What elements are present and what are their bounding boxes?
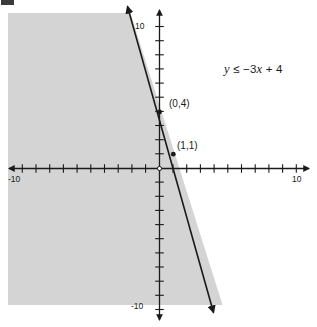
point-0-4 bbox=[157, 110, 162, 115]
x-axis-max-label: 10 bbox=[292, 174, 301, 184]
inequality-graph-figure: -10 10 10 -10 (0,4) (1,1) y ≤ −3x + 4 bbox=[0, 0, 317, 327]
point-label-1-1: (1,1) bbox=[177, 140, 198, 151]
inequality-expression: −3x + 4 bbox=[243, 63, 283, 75]
point-1-1 bbox=[171, 152, 176, 157]
y-axis-max-label: 10 bbox=[135, 21, 144, 31]
origin-marker bbox=[157, 166, 161, 170]
solution-region-shading bbox=[8, 13, 223, 305]
coordinate-plane bbox=[0, 0, 317, 327]
inequality-annotation: y ≤ −3x + 4 bbox=[224, 62, 283, 77]
x-axis-min-label: -10 bbox=[8, 174, 20, 184]
y-axis-min-label: -10 bbox=[131, 301, 143, 311]
point-label-0-4: (0,4) bbox=[169, 98, 190, 109]
